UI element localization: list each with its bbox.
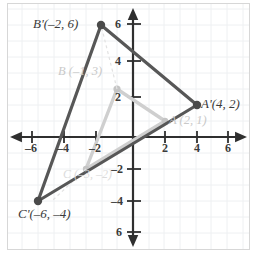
y-tick-label-pos6: 6 [115,18,121,30]
point-b-prime [97,21,105,29]
label-b-prime: B'(–2, 6) [33,17,78,30]
x-tick-label-pos6: 6 [225,142,231,154]
x-tick-label-pos2: 2 [162,142,168,154]
label-c: C (–3, –2) [63,168,112,180]
x-tick-label-neg4: –4 [57,142,69,154]
x-tick-label-neg2: –2 [89,142,101,154]
label-a-prime: A'(4, 2) [201,97,240,110]
point-c-prime [34,197,42,205]
x-tick-label-neg6: –6 [25,142,37,154]
label-b: B (–1, 3) [58,65,102,78]
y-tick-label-neg4: –4 [111,195,123,207]
x-tick-label-pos4: 4 [194,142,200,154]
y-tick-label-neg6: 6 [116,226,122,238]
label-a: A (2, 1) [169,114,207,127]
y-tick-label-pos2: 2 [115,91,121,103]
y-tick-label-pos4: 4 [115,55,121,67]
label-c-prime: C'(–6, –4) [18,207,71,220]
y-tick-label-neg2: –2 [111,163,123,175]
point-a-prime [193,101,201,109]
coordinate-plane-figure: –6 –4 –2 2 4 6 6 4 2 –2 –4 6 B'(–2, 6) A… [0,0,257,257]
